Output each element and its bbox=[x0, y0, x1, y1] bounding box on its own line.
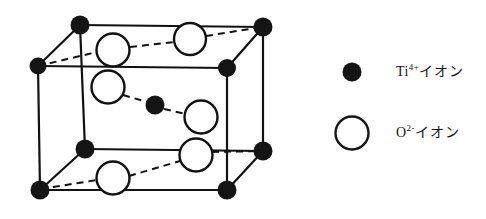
titanium-ion-body-center bbox=[146, 96, 165, 115]
titanium-ion-back-top-left bbox=[71, 16, 90, 35]
titanium-ion-back-top-right bbox=[254, 18, 273, 37]
titanium-ion-front-bottom-right bbox=[218, 181, 237, 200]
legend-item-titanium-label: Ti4+イオン bbox=[396, 65, 464, 79]
dashed-bond-mid-2 bbox=[164, 109, 186, 114]
dashed-bond-top-1 bbox=[38, 52, 97, 66]
legend-item-oxygen-label: O2-イオン bbox=[396, 126, 460, 140]
titanium-ion-back-bottom-right bbox=[254, 142, 273, 161]
titanium-ion-front-top-left bbox=[30, 58, 47, 75]
titanium-ion-group bbox=[30, 16, 273, 200]
oxygen-ion-bottom-left bbox=[97, 162, 130, 195]
legend-oxygen-symbol: O bbox=[396, 125, 407, 140]
legend-titanium-charge: 4+ bbox=[409, 62, 419, 72]
cube-edge-front-left bbox=[38, 66, 40, 190]
legend-oxygen-ion-word: イオン bbox=[415, 125, 460, 140]
oxygen-ion-top-right bbox=[174, 23, 206, 55]
titanium-ion-front-top-right bbox=[218, 59, 236, 77]
cube-edge-back-left bbox=[80, 25, 85, 149]
oxygen-ion-low-right bbox=[180, 139, 213, 172]
cube-edge-front-top bbox=[38, 66, 227, 68]
legend-titanium-symbol: Ti bbox=[396, 64, 409, 79]
dashed-bond-bot-2 bbox=[129, 161, 180, 176]
legend-oxygen-marker-icon bbox=[336, 117, 369, 150]
cube-edge-back-top bbox=[80, 25, 263, 27]
oxygen-ion-mid-right bbox=[185, 101, 218, 134]
figure-root: Ti4+イオン O2-イオン bbox=[0, 0, 486, 219]
legend-titanium-marker-icon bbox=[343, 63, 362, 82]
legend-titanium-ion-word: イオン bbox=[419, 64, 464, 79]
legend-marker-group bbox=[336, 63, 369, 150]
oxygen-ion-mid-left bbox=[92, 71, 125, 104]
dashed-bond-mid-1 bbox=[123, 95, 147, 102]
titanium-ion-back-bottom-left bbox=[76, 140, 95, 159]
titanium-ion-front-bottom-left bbox=[31, 181, 50, 200]
dashed-bond-top-2 bbox=[130, 42, 174, 47]
rutile-unit-cell-diagram bbox=[0, 0, 486, 219]
legend-oxygen-charge: 2- bbox=[407, 123, 415, 133]
oxygen-ion-top-left bbox=[97, 34, 130, 67]
